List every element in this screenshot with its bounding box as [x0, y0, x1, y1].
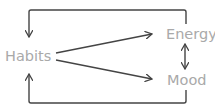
node-habits: Habits	[5, 49, 51, 64]
edge-energy-to-habits-loop	[29, 10, 186, 37]
edge-habits-to-mood	[56, 60, 152, 79]
node-energy: Energy	[166, 27, 215, 42]
diagram-canvas: Habits Energy Mood	[0, 0, 215, 109]
edge-habits-to-energy	[56, 34, 152, 53]
node-mood: Mood	[167, 73, 206, 88]
edge-mood-to-habits-loop	[29, 74, 186, 103]
